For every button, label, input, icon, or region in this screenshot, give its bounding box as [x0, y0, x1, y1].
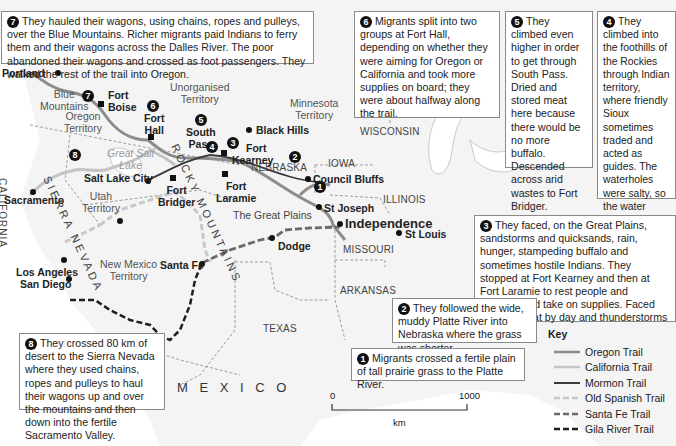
marker-5: 5	[195, 114, 207, 126]
scale-line	[329, 402, 469, 418]
santa-fe-trail-swatch-icon	[554, 411, 580, 417]
label-san-diego: San Diego	[20, 278, 71, 290]
legend-item-old-spanish-trail: Old Spanish Trail	[548, 391, 676, 407]
label-santa-fe: Santa Fe	[160, 259, 204, 271]
missouri-west-border	[335, 225, 345, 340]
label-fort-hall: FortHall	[144, 112, 164, 136]
dodge-dot	[269, 235, 275, 241]
marker-4: 4	[206, 141, 218, 153]
label-fort-laramie: FortLaramie	[216, 180, 256, 204]
black-hills-dot	[246, 127, 252, 133]
marker-6: 6	[147, 100, 159, 112]
texas-north-border	[235, 262, 330, 300]
fort-kearney-square	[221, 150, 227, 156]
gila-river-trail-swatch-icon	[554, 426, 580, 432]
fort-boise-square	[98, 101, 104, 107]
st-joseph-dot	[316, 204, 322, 210]
label-dodge: Dodge	[278, 240, 311, 252]
label-missouri: MISSOURI	[343, 244, 394, 255]
label-oregon-territory: Oregon Territory	[64, 110, 102, 134]
scale-end: 1000	[459, 390, 480, 401]
trail-map: Blue Mountains Oregon Territory Unorgani…	[0, 0, 676, 446]
scale-unit: km	[393, 417, 406, 428]
marker-2: 2	[289, 151, 301, 163]
great-lakes	[429, 110, 470, 174]
marker-1: 1	[314, 181, 326, 193]
callout-2: 2They followed the wide, muddy Platte Ri…	[392, 298, 537, 343]
label-wisconsin: WISCONSIN	[360, 126, 420, 137]
label-illinois: ILLINOIS	[383, 194, 426, 205]
callout-7: 7They hauled their wagons, using chains,…	[1, 11, 314, 64]
council-bluffs-dot	[305, 176, 311, 182]
legend-item-gila-river-trail: Gila River Trail	[548, 422, 676, 438]
oregon-trail-swatch-icon	[554, 349, 580, 355]
scale-bar: 0 1000 km	[329, 390, 469, 430]
callout-6: 6Migrants split into two groups at Fort …	[354, 11, 500, 118]
label-sacramento: Sacramento	[4, 194, 64, 206]
utah-town-dot	[117, 218, 123, 224]
old-spanish-trail-swatch-icon	[554, 395, 580, 401]
legend-item-oregon-trail: Oregon Trail	[548, 344, 676, 360]
callout-8: 8They crossed 80 km of desert to the Sie…	[19, 333, 165, 410]
label-utah-territory: Utah Territory	[82, 190, 120, 214]
scale-start: 0	[330, 390, 335, 401]
legend-item-mormon-trail: Mormon Trail	[548, 375, 676, 391]
label-st-louis: St Louis	[405, 228, 446, 240]
legend-item-california-trail: California Trail	[548, 360, 676, 376]
label-great-salt-lake: Great Salt Lake	[107, 147, 154, 171]
label-st-joseph: St Joseph	[324, 202, 374, 214]
marker-7: 7	[82, 90, 94, 102]
callout-5: 5They climbed even higher in order to ge…	[505, 11, 593, 168]
callout-4: 4They climbed into the foothills of the …	[597, 11, 676, 199]
label-great-plains: The Great Plains	[233, 209, 312, 221]
los-angeles-dot	[61, 257, 67, 263]
label-california: CALIFORNIA	[0, 178, 8, 248]
legend-title: Key	[548, 328, 676, 340]
label-texas: TEXAS	[263, 323, 297, 334]
label-new-mexico-territory: New Mexico Territory	[100, 258, 157, 282]
legend: Key Oregon Trail California Trail Mormon…	[548, 328, 676, 437]
label-arkansas: ARKANSAS	[340, 285, 396, 296]
label-mexico: M E X I C O	[177, 380, 290, 395]
independence-dot	[337, 221, 343, 227]
label-salt-lake-city: Salt Lake City	[84, 172, 153, 184]
fort-laramie-square	[222, 171, 228, 177]
label-black-hills: Black Hills	[256, 124, 309, 136]
missouri-south-border	[335, 260, 385, 267]
fort-bridger-square	[170, 175, 176, 181]
label-minnesota-territory: Minnesota Territory	[290, 97, 338, 121]
label-fort-boise: FortBoise	[108, 89, 137, 113]
nm-texas-border	[180, 260, 235, 385]
marker-8: 8	[69, 149, 81, 161]
marker-3: 3	[227, 137, 239, 149]
label-los-angeles: Los Angeles	[16, 266, 78, 278]
callout-1: 1Migrants crossed a fertile plain of tal…	[351, 348, 525, 381]
label-fort-bridger: FortBridger	[158, 184, 195, 208]
legend-item-santa-fe-trail: Santa Fe Trail	[548, 406, 676, 422]
mormon-trail-swatch-icon	[554, 380, 580, 386]
label-iowa: IOWA	[328, 158, 355, 169]
label-unorganised-territory: Unorganised Territory	[170, 81, 230, 105]
label-blue-mountains: Blue Mountains	[40, 88, 88, 112]
california-trail-swatch-icon	[554, 364, 580, 370]
